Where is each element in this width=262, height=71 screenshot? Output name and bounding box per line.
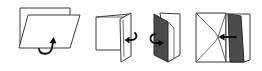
- step-3-turn-over: [151, 13, 181, 62]
- step-4-insert-envelope: [196, 13, 250, 62]
- dark-panel: [154, 14, 168, 62]
- folding-diagram: [0, 0, 262, 71]
- folding-steps-svg: [0, 0, 262, 71]
- dark-insert-panel: [228, 14, 244, 62]
- step-2-fold-flap: [96, 13, 136, 62]
- step-1-fold-sheet: [19, 8, 80, 54]
- front-parallelogram-sheet: [19, 15, 80, 48]
